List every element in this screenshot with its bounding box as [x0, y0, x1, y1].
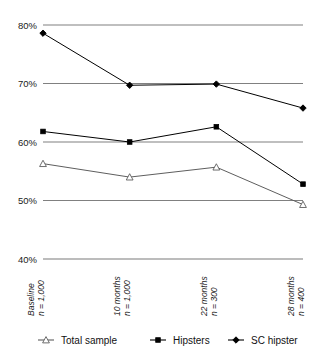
x-axis-n-label-0: n = 1,000	[36, 280, 46, 316]
y-axis-tick-labels-group: 40%50%60%70%80%	[18, 20, 38, 265]
series-hipsters	[41, 124, 306, 186]
y-axis-label-50%: 50%	[18, 195, 38, 206]
series-line	[43, 33, 303, 108]
series-line	[43, 127, 303, 184]
x-axis-n-label-1: n = 1,000	[122, 280, 132, 316]
legend-label-hipsters: Hipsters	[173, 335, 210, 346]
series-line	[43, 164, 303, 205]
x-axis-period-label-2: 22 months	[199, 276, 209, 317]
x-axis-tick-labels-group: Baselinen = 1,00010 monthsn = 1,00022 mo…	[26, 276, 306, 317]
y-axis-label-80%: 80%	[18, 20, 38, 31]
legend-label-sc-hipster: SC hipster	[251, 335, 298, 346]
x-axis-period-label-0: Baseline	[26, 283, 36, 316]
line-chart: 40%50%60%70%80% Baselinen = 1,00010 mont…	[0, 0, 312, 358]
x-axis-n-label-3: n = 400	[296, 287, 306, 316]
data-point	[41, 129, 46, 134]
data-point	[301, 182, 306, 187]
data-point	[40, 160, 47, 166]
gridlines-group	[43, 25, 303, 259]
data-point	[127, 140, 132, 145]
legend-group: Total sampleHipstersSC hipster	[38, 335, 298, 346]
chart-container: 40%50%60%70%80% Baselinen = 1,00010 mont…	[0, 0, 312, 358]
x-axis-period-label-3: 28 months	[286, 276, 296, 317]
y-axis-label-40%: 40%	[18, 254, 38, 265]
data-point	[213, 164, 220, 170]
legend-marker-2	[233, 337, 239, 343]
data-point	[300, 105, 306, 111]
y-axis-label-70%: 70%	[18, 78, 38, 89]
series-group	[40, 30, 307, 207]
legend-label-total-sample: Total sample	[61, 335, 118, 346]
data-point	[213, 81, 219, 87]
data-point	[214, 124, 219, 129]
series-sc-hipster	[40, 30, 306, 111]
data-point	[40, 30, 46, 36]
data-point	[300, 201, 307, 207]
x-axis-period-label-1: 10 months	[112, 276, 122, 316]
legend-marker-1	[156, 338, 161, 343]
x-axis-n-label-2: n = 300	[209, 287, 219, 316]
y-axis-label-60%: 60%	[18, 137, 38, 148]
